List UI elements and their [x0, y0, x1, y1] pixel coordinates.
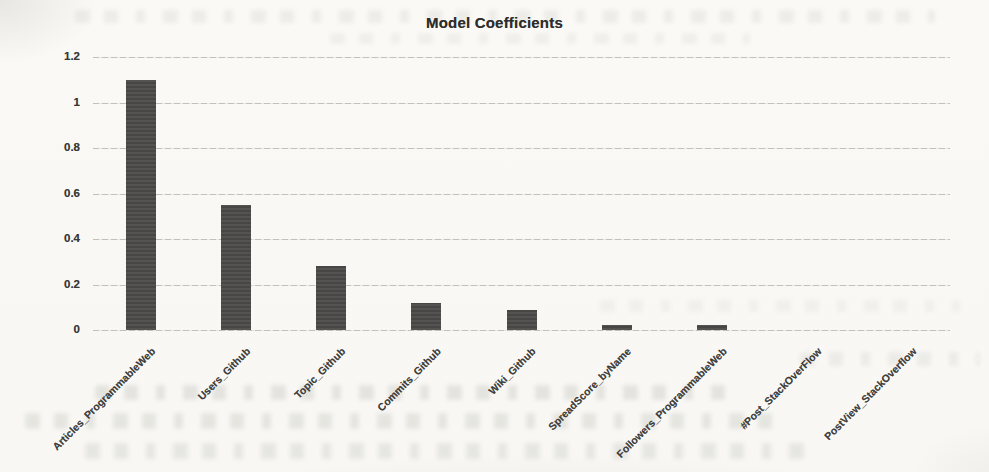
x-axis-category-label: Articles_ProgrammableWeb: [50, 345, 157, 452]
x-axis-category-label: Commits_Github: [374, 345, 442, 413]
x-axis-category-label: Wiki_Github: [486, 345, 538, 397]
x-axis-category-label: PostView_StackOverflow: [822, 345, 919, 442]
model-coefficients-bar-chart: Model Coefficients 00.20.40.60.811.2 Art…: [0, 0, 989, 472]
x-axis-category-label: Topic_Github: [292, 345, 348, 401]
x-axis-category-label: Users_Github: [195, 345, 252, 402]
x-axis: Articles_ProgrammableWebUsers_GithubTopi…: [0, 0, 989, 472]
x-axis-category-label: Followers_ProgrammableWeb: [614, 345, 729, 460]
x-axis-category-label: #Post_StackOverFlow: [737, 345, 823, 431]
scanned-document-page: Model Coefficients 00.20.40.60.811.2 Art…: [0, 0, 989, 472]
x-axis-category-label: SpreadScore_byName: [546, 345, 633, 432]
